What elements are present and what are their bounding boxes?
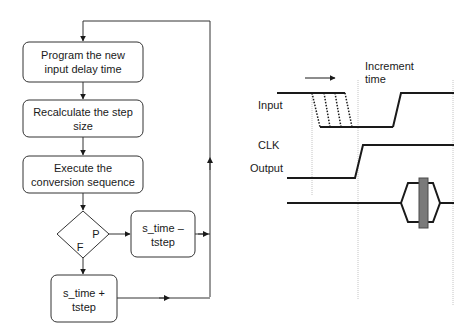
step-3-line-2: conversion sequence xyxy=(31,176,135,188)
signal-label-input: Input xyxy=(258,99,282,111)
output-uncertainty-bar xyxy=(419,178,428,228)
step-3-line-1: Execute the xyxy=(54,162,112,174)
decision-pass-label: P xyxy=(92,228,99,240)
diagram-canvas: Program the new input delay time Recalcu… xyxy=(0,0,475,335)
increment-time-line-2: time xyxy=(365,73,386,85)
clk-waveform xyxy=(287,145,454,178)
step-1-line-2: input delay time xyxy=(44,63,121,75)
step-box-execute-conversion: Execute the conversion sequence xyxy=(23,156,143,193)
decision-fail-label: F xyxy=(77,241,84,253)
signal-label-clk: CLK xyxy=(258,139,280,151)
fail-box-line-1: s_time + xyxy=(63,287,105,299)
input-waveform xyxy=(277,93,454,127)
decision-diamond: P F xyxy=(57,211,109,258)
step-2-line-2: size xyxy=(73,120,93,132)
timing-diagram: Increment time Input CLK Output xyxy=(250,60,454,305)
step-box-program-delay: Program the new input delay time xyxy=(23,42,143,82)
step-1-line-1: Program the new xyxy=(41,49,125,61)
step-2-line-1: Recalculate the step xyxy=(33,106,133,118)
fail-box-increment: s_time + tstep xyxy=(51,275,117,322)
pass-box-line-1: s_time – xyxy=(142,222,184,234)
signal-label-output: Output xyxy=(250,162,283,174)
pass-box-line-2: tstep xyxy=(151,236,175,248)
pass-box-decrement: s_time – tstep xyxy=(131,211,195,257)
increment-time-line-1: Increment xyxy=(365,60,414,72)
input-edge-variations xyxy=(312,93,352,127)
fail-box-line-2: tstep xyxy=(72,301,96,313)
step-box-recalculate-step: Recalculate the step size xyxy=(23,100,143,137)
